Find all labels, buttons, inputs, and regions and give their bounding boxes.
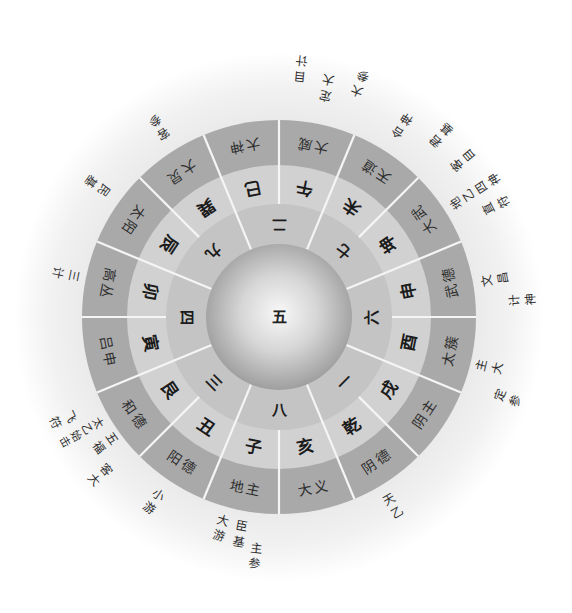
branch-label: 午 [295, 178, 315, 198]
branch-label: 卯 [140, 281, 160, 301]
outer-god-label: 目计 [294, 51, 309, 88]
taiyi-wheel-diagram: 五 二 七 六 一 八 三 四 九 巳 午 未 坤 申 酉 戌 乾 亥 子 丑 … [0, 0, 572, 613]
branch-label: 子 [243, 437, 263, 457]
branch-label: 巳 [243, 178, 263, 198]
palace-number: 二 [272, 217, 287, 232]
outer-god-label: 主参 [246, 536, 262, 573]
branch-label: 寅 [140, 333, 160, 353]
branch-label: 亥 [295, 437, 315, 457]
outer-god-label: 计神 [504, 294, 541, 308]
branch-label: 申 [399, 281, 419, 301]
palace-number: 八 [272, 403, 287, 418]
wheel-graphic [0, 0, 572, 613]
palace-number: 四 [179, 310, 194, 325]
palace-number: 六 [365, 310, 380, 325]
branch-label: 酉 [399, 333, 419, 353]
center-number: 五 [272, 310, 287, 325]
